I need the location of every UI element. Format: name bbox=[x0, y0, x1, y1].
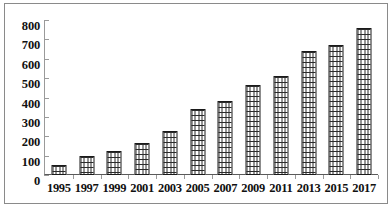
y-tick-mark bbox=[44, 39, 49, 40]
y-axis: 0100200300400500600700800 bbox=[6, 14, 40, 180]
x-axis: 1995199719992001200320052007200920112013… bbox=[40, 181, 385, 201]
x-tick-label: 1995 bbox=[45, 181, 73, 195]
bar-group bbox=[239, 20, 267, 175]
bar-group bbox=[267, 20, 295, 175]
bar[interactable] bbox=[329, 45, 344, 175]
bar-group bbox=[212, 20, 240, 175]
y-tick-mark bbox=[44, 156, 49, 157]
y-tick-label: 500 bbox=[6, 78, 40, 90]
bar-group bbox=[323, 20, 351, 175]
x-tick-mark bbox=[295, 175, 296, 179]
x-tick-label: 2007 bbox=[212, 181, 240, 195]
x-tick-label: 2009 bbox=[239, 181, 267, 195]
bar-group bbox=[73, 20, 101, 175]
bar-group bbox=[101, 20, 129, 175]
bar-group bbox=[128, 20, 156, 175]
x-axis-tick-marks bbox=[45, 175, 378, 180]
bar[interactable] bbox=[273, 76, 288, 175]
x-tick-mark bbox=[267, 175, 268, 179]
bar[interactable] bbox=[135, 143, 150, 175]
bar[interactable] bbox=[246, 85, 261, 175]
y-tick-mark bbox=[44, 20, 49, 21]
x-tick-mark bbox=[212, 175, 213, 179]
x-tick-label: 2013 bbox=[295, 181, 323, 195]
x-tick-label: 2003 bbox=[156, 181, 184, 195]
x-tick-label: 1997 bbox=[73, 181, 101, 195]
bar-group bbox=[350, 20, 378, 175]
y-tick-label: 800 bbox=[6, 20, 40, 32]
bar-chart-figure: 0100200300400500600700800 19951997199920… bbox=[0, 0, 392, 209]
bar-group bbox=[156, 20, 184, 175]
bar-group bbox=[295, 20, 323, 175]
bar-group bbox=[184, 20, 212, 175]
y-tick-mark bbox=[44, 136, 49, 137]
x-tick-mark bbox=[184, 175, 185, 179]
x-tick-label: 1999 bbox=[101, 181, 129, 195]
x-tick-mark bbox=[128, 175, 129, 179]
bar[interactable] bbox=[301, 51, 316, 175]
y-tick-label: 200 bbox=[6, 136, 40, 148]
bar[interactable] bbox=[79, 156, 94, 175]
bar-group bbox=[45, 20, 73, 175]
y-tick-label: 400 bbox=[6, 98, 40, 110]
y-tick-label: 300 bbox=[6, 117, 40, 129]
bars-container bbox=[45, 20, 378, 175]
x-tick-mark bbox=[156, 175, 157, 179]
y-tick-label: 600 bbox=[6, 59, 40, 71]
x-tick-mark bbox=[239, 175, 240, 179]
y-tick-mark bbox=[44, 78, 49, 79]
x-tick-label: 2005 bbox=[184, 181, 212, 195]
y-tick-mark bbox=[44, 98, 49, 99]
x-tick-mark bbox=[73, 175, 74, 179]
x-tick-mark bbox=[323, 175, 324, 179]
bar[interactable] bbox=[51, 165, 66, 175]
y-tick-mark bbox=[44, 175, 49, 176]
bar[interactable] bbox=[190, 109, 205, 175]
x-tick-label: 2001 bbox=[128, 181, 156, 195]
x-tick-label: 2017 bbox=[350, 181, 378, 195]
y-tick-label: 100 bbox=[6, 156, 40, 168]
y-tick-mark bbox=[44, 59, 49, 60]
bar[interactable] bbox=[162, 131, 177, 175]
x-tick-label: 2011 bbox=[267, 181, 295, 195]
x-tick-mark bbox=[378, 175, 379, 179]
x-tick-mark bbox=[101, 175, 102, 179]
y-tick-label: 0 bbox=[6, 175, 40, 187]
bar[interactable] bbox=[107, 151, 122, 175]
y-tick-mark bbox=[44, 117, 49, 118]
x-tick-label: 2015 bbox=[323, 181, 351, 195]
x-tick-mark bbox=[350, 175, 351, 179]
y-tick-label: 700 bbox=[6, 39, 40, 51]
bar[interactable] bbox=[218, 101, 233, 175]
bar[interactable] bbox=[357, 28, 372, 175]
